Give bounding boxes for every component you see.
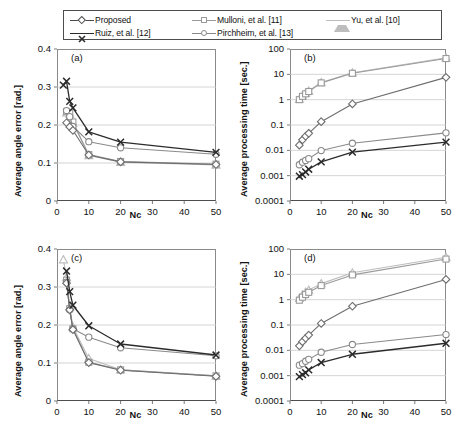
panel-letter: (d) (304, 252, 316, 263)
x-tick-label: 0 (46, 206, 68, 217)
circle-marker-icon (192, 27, 216, 39)
x-tick-label: 10 (310, 406, 332, 417)
circle-marker-icon (67, 114, 73, 120)
diamond-marker-icon (349, 100, 357, 108)
panel-letter: (c) (71, 252, 82, 263)
circle-marker-icon (63, 107, 69, 113)
panel-d: (d)0.00010.0010.010.111010001020304050Nc… (228, 244, 457, 444)
panel-letter: (b) (304, 52, 316, 63)
y-tick-label: 0.0001 (228, 395, 284, 406)
square-marker-icon (443, 56, 449, 62)
legend-item-3[interactable]: Yu, et al. [10] (326, 13, 400, 27)
square-marker-icon (306, 89, 312, 95)
legend-item-5[interactable]: Pirchheim, et al. [13] (192, 26, 293, 40)
circle-marker-icon (86, 334, 92, 340)
x-tick-label: 30 (373, 406, 395, 417)
x-tick-label: 30 (141, 406, 163, 417)
x-tick-label: 50 (205, 206, 227, 217)
square-marker-icon (318, 80, 324, 86)
diamond-marker-icon (70, 14, 94, 26)
y-axis-title: Average processing time [sec.] (239, 62, 249, 197)
legend-item-2[interactable]: Mulloni, et al. [11] (192, 13, 282, 27)
series-line (299, 343, 446, 376)
y-tick-label: 10 (228, 268, 284, 279)
y-axis-title: Average processing time [sec.] (239, 262, 249, 397)
legend-label: Pirchheim, et al. [13] (217, 29, 293, 38)
cross-marker-icon (305, 166, 312, 173)
x-tick-label: 50 (205, 406, 227, 417)
y-tick-label: 0.2 (0, 319, 51, 330)
x-axis-title: Nc (361, 210, 373, 220)
x-axis-title: Nc (130, 410, 142, 420)
y-tick-label: 0.01 (228, 344, 284, 355)
y-tick-label: 0.01 (228, 144, 284, 155)
x-tick-label: 30 (141, 206, 163, 217)
cross-marker-icon (305, 366, 312, 373)
circle-marker-icon (118, 145, 124, 151)
diamond-marker-icon (349, 302, 357, 310)
legend-item-1[interactable]: Proposed (70, 13, 131, 27)
panel-b: (b)0.00010.0010.010.111010001020304050Nc… (228, 44, 457, 244)
series-line (299, 279, 446, 345)
x-tick-label: 0 (46, 406, 68, 417)
circle-marker-icon (306, 356, 312, 362)
circle-marker-icon (443, 331, 449, 337)
square-marker-icon (443, 256, 449, 262)
y-tick-label: 1 (228, 94, 284, 105)
x-tick-label: 40 (404, 206, 426, 217)
y-axis-title: Average angle error [rad.] (13, 285, 23, 397)
circle-marker-icon (306, 156, 312, 162)
legend-label: Yu, et al. [10] (351, 16, 400, 25)
cross-marker-icon (85, 322, 92, 329)
y-tick-label: 1 (228, 294, 284, 305)
square-marker-icon (192, 14, 216, 26)
x-axis-title: Nc (361, 410, 373, 420)
chart-legend: ProposedMulloni, et al. [11]Yu, et al. [… (63, 10, 442, 40)
cross-marker-icon (318, 158, 325, 165)
y-tick-label: 0.4 (0, 243, 51, 254)
x-tick-label: 10 (78, 206, 100, 217)
cross-marker-icon (70, 27, 94, 39)
legend-item-4[interactable]: Ruiz, et al. [12] (70, 26, 151, 40)
y-axis-title: Average angle error [rad.] (13, 85, 23, 197)
panel-letter: (a) (71, 52, 83, 63)
circle-marker-icon (443, 130, 449, 136)
x-tick-label: 0 (279, 206, 301, 217)
y-tick-label: 100 (228, 43, 284, 54)
square-marker-icon (318, 283, 324, 289)
y-tick-label: 10 (228, 68, 284, 79)
legend-label: Mulloni, et al. [11] (217, 16, 282, 25)
y-tick-label: 0.001 (228, 370, 284, 381)
circle-marker-icon (349, 341, 355, 347)
x-tick-label: 40 (173, 406, 195, 417)
circle-marker-icon (86, 139, 92, 145)
x-tick-label: 30 (373, 206, 395, 217)
x-tick-label: 40 (173, 206, 195, 217)
circle-marker-icon (318, 147, 324, 153)
circle-marker-icon (318, 349, 324, 355)
series-line (299, 257, 446, 298)
legend-label: Ruiz, et al. [12] (95, 29, 151, 38)
y-tick-label: 0.1 (228, 119, 284, 130)
y-tick-label: 0.1 (0, 157, 51, 168)
y-tick-label: 0.3 (0, 81, 51, 92)
legend-label: Proposed (95, 16, 131, 25)
y-tick-label: 0.0001 (228, 195, 284, 206)
y-tick-label: 0.1 (228, 319, 284, 330)
x-tick-label: 40 (404, 406, 426, 417)
y-tick-label: 0.1 (0, 357, 51, 368)
x-axis-title: Nc (130, 210, 142, 220)
y-tick-label: 0 (0, 395, 51, 406)
triangle-marker-icon (59, 256, 67, 263)
figure-root: ProposedMulloni, et al. [11]Yu, et al. [… (0, 0, 457, 444)
x-tick-label: 50 (435, 406, 457, 417)
series-line (67, 282, 216, 356)
y-tick-label: 0.3 (0, 281, 51, 292)
x-tick-label: 10 (78, 406, 100, 417)
cross-marker-icon (85, 128, 92, 135)
y-tick-label: 0.001 (228, 170, 284, 181)
y-tick-label: 0.2 (0, 119, 51, 130)
circle-marker-icon (349, 140, 355, 146)
series-line (67, 271, 216, 355)
x-tick-label: 20 (110, 206, 132, 217)
